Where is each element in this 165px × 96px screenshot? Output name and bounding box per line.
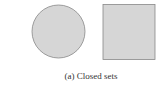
- closed-square-shape: [103, 5, 155, 60]
- closed-sets-diagram: [0, 0, 165, 96]
- figure-caption: (a) Closed sets: [0, 71, 165, 81]
- closed-disk-shape: [32, 5, 85, 58]
